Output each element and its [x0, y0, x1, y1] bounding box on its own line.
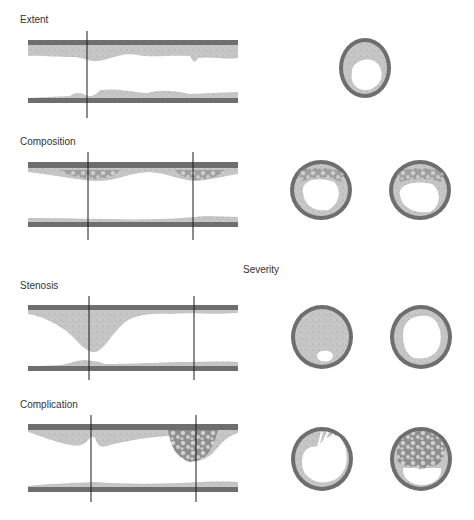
composition-cross-section-1 [290, 160, 352, 220]
stenosis-cross-section-severe [291, 305, 353, 369]
composition-longitudinal-vessel [28, 152, 238, 240]
plaque-diagram [0, 0, 474, 520]
extent-longitudinal-vessel [28, 31, 238, 118]
stenosis-longitudinal-vessel [28, 296, 238, 380]
complication-cross-section-thrombus [390, 427, 452, 491]
stenosis-cross-section-mild [390, 305, 452, 369]
composition-cross-section-2 [389, 160, 451, 220]
complication-cross-section-rupture [291, 427, 353, 491]
complication-longitudinal-vessel [28, 415, 238, 502]
extent-cross-section [339, 38, 391, 98]
